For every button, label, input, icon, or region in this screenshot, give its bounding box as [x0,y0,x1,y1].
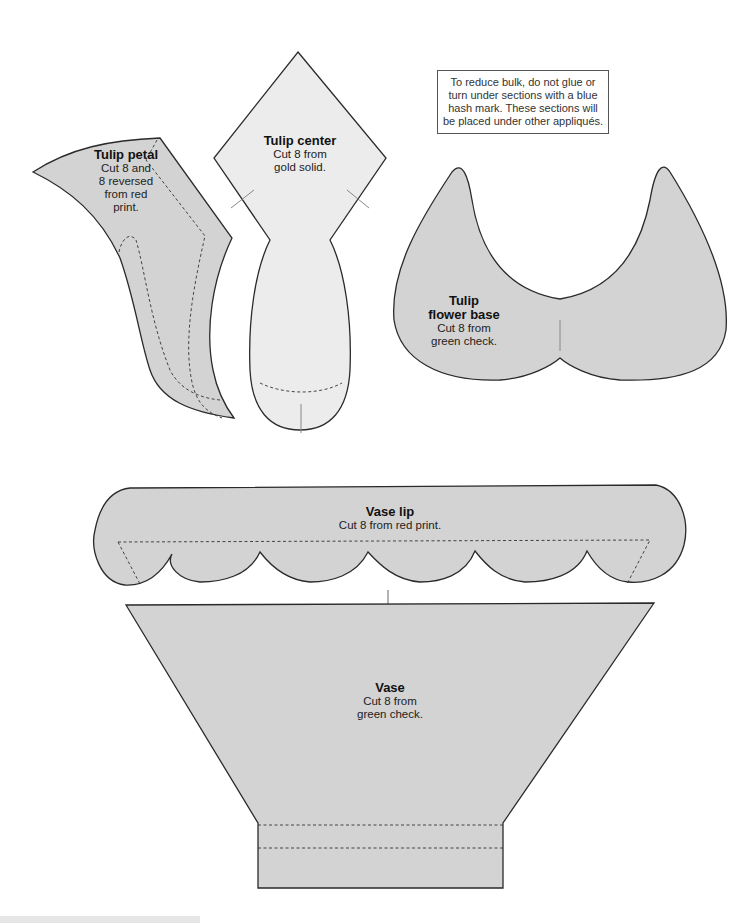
vase-label: Vase Cut 8 from green check. [340,681,440,721]
tulip-center-shape [214,52,386,433]
tulip-petal-label: Tulip petal Cut 8 and 8 reversed from re… [90,148,162,214]
vase-shape [126,603,654,888]
bottom-edge-strip [0,916,200,923]
pattern-canvas [0,0,742,923]
vase-title: Vase [340,681,440,695]
vase-lip-title: Vase lip [320,505,460,519]
tulip-flower-base-shape [394,167,727,380]
vase-lip-label: Vase lip Cut 8 from red print. [320,505,460,532]
tulip-center-label: Tulip center Cut 8 from gold solid. [248,134,352,174]
tulip-flower-base-label: Tulip flower base Cut 8 from green check… [418,294,510,348]
tulip-petal-title: Tulip petal [90,148,162,162]
instruction-note: To reduce bulk, do not glue or turn unde… [437,70,609,134]
tulip-center-title: Tulip center [248,134,352,148]
